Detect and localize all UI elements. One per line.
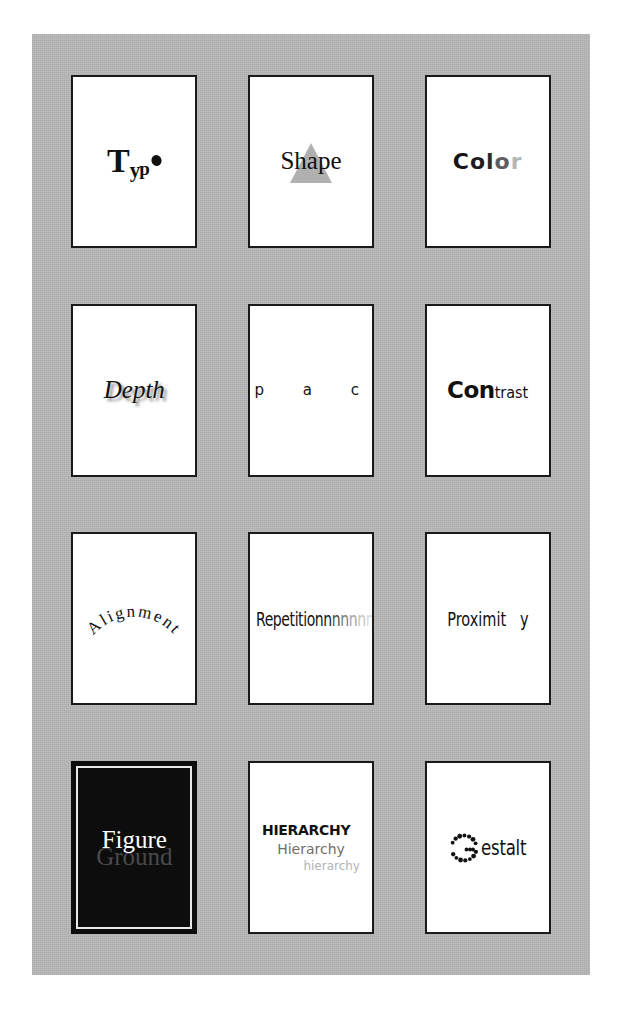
gestalt-dot-8: [471, 853, 476, 858]
proximity-word: Proximit y: [447, 608, 528, 630]
typo-letter-o-dot: [150, 154, 163, 168]
card-repetition[interactable]: Repetitionnnnnnn: [248, 532, 374, 705]
gestalt-dot-4: [466, 834, 470, 838]
color-letter-0: C: [453, 149, 470, 174]
typo-word: Typ: [107, 144, 162, 178]
shape-composition: Shape: [280, 147, 341, 175]
card-color[interactable]: Color: [425, 75, 551, 248]
space-word: s p a c e: [248, 381, 374, 399]
proximity-far-part: y: [520, 608, 529, 630]
color-letter-2: l: [486, 149, 495, 174]
proximity-gap: [506, 608, 520, 630]
grid-cell: Proximit y: [407, 512, 568, 727]
card-hierarchy[interactable]: HIERARCHY Hierarchy hierarchy: [248, 761, 374, 934]
grid-cell: s p a c e: [231, 283, 392, 498]
grid-cell: Depth: [54, 283, 215, 498]
poster-panel: Typ Shape Color Depth: [32, 34, 590, 975]
proximity-near-part: Proximit: [447, 608, 506, 630]
color-letter-1: o: [470, 149, 486, 174]
card-proximity[interactable]: Proximit y: [425, 532, 551, 705]
grid-cell: Figure Ground: [54, 740, 215, 955]
grid-cell: Repetitionnnnnnn: [231, 512, 392, 727]
gestalt-dot-5: [470, 837, 475, 842]
card-figure-ground[interactable]: Figure Ground: [71, 761, 197, 934]
hierarchy-level-3: hierarchy: [262, 858, 360, 874]
gestalt-dot-11: [458, 857, 463, 862]
grid-cell: Color: [407, 54, 568, 269]
typo-letter-p: p: [139, 158, 150, 179]
grid-cell: estalt: [407, 740, 568, 955]
gestalt-bar-dot-2: [471, 847, 475, 851]
gestalt-dot-1: [453, 836, 457, 840]
gestalt-dot-2: [457, 833, 462, 838]
card-gestalt[interactable]: estalt: [425, 761, 551, 934]
card-contrast[interactable]: Contrast: [425, 304, 551, 477]
gestalt-dot-0: [450, 840, 454, 844]
figure-ground-stack: Figure Ground: [96, 828, 172, 868]
grid-cell: Alignment: [54, 512, 215, 727]
gestalt-composition: estalt: [447, 831, 529, 865]
alignment-arc: Alignment: [73, 559, 195, 679]
grid-cell: Typ: [54, 54, 215, 269]
alignment-word: Alignment: [83, 601, 186, 638]
hierarchy-level-2: Hierarchy: [262, 840, 360, 859]
grid-cell: HIERARCHY Hierarchy hierarchy: [231, 740, 392, 955]
card-alignment[interactable]: Alignment: [71, 532, 197, 705]
color-letter-3: o: [495, 149, 511, 174]
typo-letter-y: y: [130, 158, 140, 182]
card-typo[interactable]: Typ: [71, 75, 197, 248]
gestalt-dot-6: [473, 841, 477, 845]
repetition-word: Repetitionnnnnnn: [256, 608, 374, 630]
gestalt-dot-10: [463, 858, 467, 862]
grid-cell: Contrast: [407, 283, 568, 498]
gestalt-dot-12: [454, 856, 458, 860]
card-space[interactable]: s p a c e: [248, 304, 374, 477]
hierarchy-stack: HIERARCHY Hierarchy hierarchy: [250, 821, 372, 875]
depth-word: Depth: [104, 376, 165, 404]
contrast-light-part: trast: [495, 383, 529, 402]
gestalt-dot-9: [467, 857, 471, 861]
repetition-n-2: n: [340, 608, 348, 630]
typo-letter-t: T: [107, 142, 130, 179]
color-word: Color: [453, 149, 523, 174]
gestalt-bar-dot-0: [464, 847, 468, 851]
dotted-g-icon: [447, 831, 483, 865]
grid-cell: Shape: [231, 54, 392, 269]
gestalt-word-rest: estalt: [481, 836, 526, 860]
shape-word: Shape: [280, 147, 341, 175]
repetition-fading-tail: nnnnnn: [323, 608, 374, 630]
repetition-base-word: Repetition: [256, 608, 323, 630]
gestalt-dot-3: [462, 833, 466, 837]
repetition-n-5: n: [366, 608, 374, 630]
contrast-word: Contrast: [447, 377, 528, 403]
figure-word: Figure: [102, 826, 167, 853]
repetition-n-4: n: [357, 608, 365, 630]
principles-grid: Typ Shape Color Depth: [32, 34, 590, 975]
contrast-heavy-part: Con: [447, 377, 495, 403]
card-shape[interactable]: Shape: [248, 75, 374, 248]
gestalt-dot-13: [451, 852, 455, 856]
repetition-n-1: n: [332, 608, 340, 630]
card-depth[interactable]: Depth: [71, 304, 197, 477]
color-letter-4: r: [511, 149, 523, 174]
hierarchy-level-1: HIERARCHY: [262, 821, 360, 840]
